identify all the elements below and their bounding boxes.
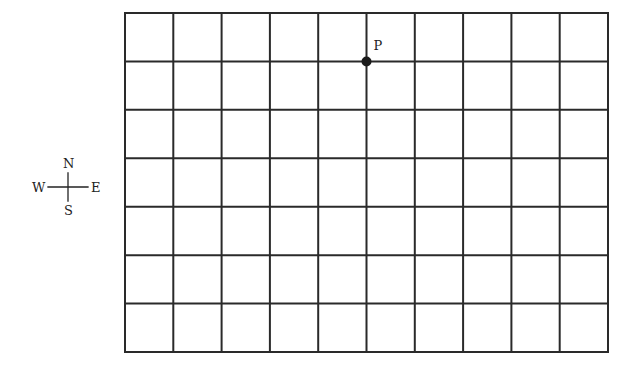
- compass-north-label: N: [63, 157, 74, 170]
- compass-east-label: E: [91, 181, 101, 194]
- compass-icon: [48, 173, 88, 201]
- compass-south-label: S: [64, 204, 73, 217]
- point-p-label: P: [374, 39, 383, 52]
- point-p-marker: [362, 56, 372, 66]
- compass-west-label: W: [32, 181, 45, 194]
- grid-diagram: N S E W P: [0, 0, 636, 373]
